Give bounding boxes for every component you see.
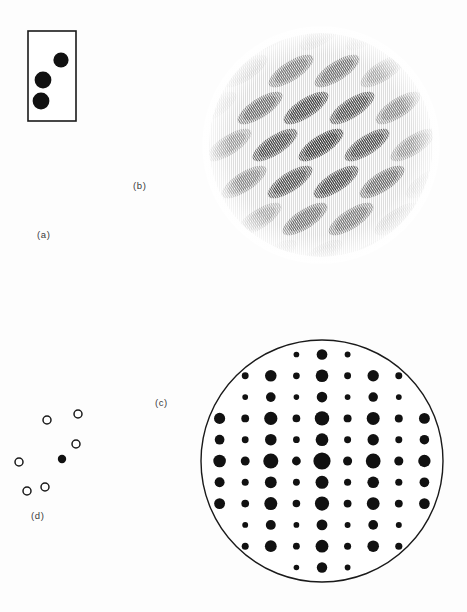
panel-c-spot [394,456,403,465]
panel-b-rim-fade [202,26,439,263]
panel-c-spot [266,520,276,530]
panel-c-spot [344,543,351,550]
panel-c-spot [263,453,278,468]
panel-d-filled-spot-0 [58,455,66,463]
panel-c-spot [345,352,351,358]
panel-c-spot [316,433,329,446]
panel-a [0,0,120,250]
panel-c-spot [242,543,249,550]
panel-c-spot [395,479,402,486]
panel-d-open-spot-4 [41,483,49,491]
panel-c-spot [344,479,351,486]
panel-c-spot [317,519,328,530]
panel-c-spot [317,562,327,572]
panel-c-spot [317,392,328,403]
panel-c-spot [242,372,249,379]
figure-root: (a) (b) (c) [0,0,467,612]
panel-c-spot [264,497,277,510]
panel-c-spot [293,372,300,379]
panel-c-spot [343,456,352,465]
panel-c-spot [294,522,300,528]
panel-b [185,8,460,298]
panel-d-open-spot-3 [15,458,23,466]
panel-c-spot [313,452,330,469]
panel-d-open-spot-1 [43,416,51,424]
panel-c-spot [293,500,301,508]
panel-c-spot [344,414,352,422]
panel-c-spot [367,540,379,552]
panel-c-spot [367,476,379,488]
panel-c-spot [367,497,380,510]
panel-c-spot [419,498,430,509]
panel-c-spot [215,435,225,445]
panel-c-spot [395,543,402,550]
panel-a-label: (a) [37,229,50,240]
panel-c-spot [294,565,300,571]
panel-c-spot [316,540,329,553]
panel-c-spot [368,370,379,381]
panel-b-graphic [185,8,460,298]
panel-d-open-spot-2 [72,440,80,448]
panel-c-spot [396,522,402,528]
panel-c-spot [242,522,248,528]
panel-c-spot [242,436,249,443]
panel-c-spot [395,414,403,422]
panel-c-spot [215,477,225,487]
panel-a-spot-1 [35,72,52,89]
panel-c-spot [344,372,351,379]
panel-c-spot [293,415,301,423]
panel-c-spot [344,436,351,443]
panel-d [0,400,120,540]
panel-c-spot [317,349,328,360]
panel-c-spot [293,479,300,486]
panel-c-spot [395,500,403,508]
panel-c-spot [396,394,402,400]
panel-c-spot [242,394,248,400]
panel-c-spot [368,392,378,402]
panel-c-spot [420,477,430,487]
panel-c [185,320,460,610]
panel-c-spot [265,370,277,382]
panel-d-label: (d) [31,510,44,521]
panel-c-spot [395,372,402,379]
panel-c-spot [344,500,352,508]
panel-c-spot [315,411,329,425]
panel-c-spot [345,522,351,528]
panel-c-spot [368,434,379,445]
panel-c-graphic [185,320,460,610]
panel-c-spot [266,392,276,402]
panel-c-spot [294,394,300,400]
panel-c-spot [316,476,329,489]
panel-c-spot [418,455,430,467]
panel-c-spot [214,413,225,424]
panel-c-spot [367,412,380,425]
panel-c-spot [315,497,329,511]
panel-d-graphic [0,400,120,540]
panel-a-box [28,31,76,121]
panel-c-spot [294,352,300,358]
panel-c-spot [345,565,351,571]
panel-c-spot [214,498,225,509]
panel-c-spot [419,413,430,424]
panel-a-spot-0 [53,52,68,67]
panel-b-label: (b) [133,180,146,191]
panel-c-spot [241,500,249,508]
panel-a-spot-2 [33,93,50,110]
panel-c-spot [265,434,277,446]
panel-c-spot [366,454,381,469]
panel-c-spot [420,435,430,445]
panel-d-open-spot-0 [74,410,82,418]
panel-c-spot [316,370,329,383]
panel-c-spot [395,436,402,443]
panel-c-spot [265,540,277,552]
panel-c-spot [264,412,277,425]
panel-c-spot [293,543,300,550]
panel-c-spot [242,479,249,486]
panel-c-spot [368,520,378,530]
panel-c-spot [293,436,300,443]
panel-c-spot [265,476,277,488]
panel-c-label: (c) [155,397,168,408]
panel-c-spot [241,457,250,466]
panel-a-graphic [0,0,120,250]
panel-c-spot [345,394,351,400]
